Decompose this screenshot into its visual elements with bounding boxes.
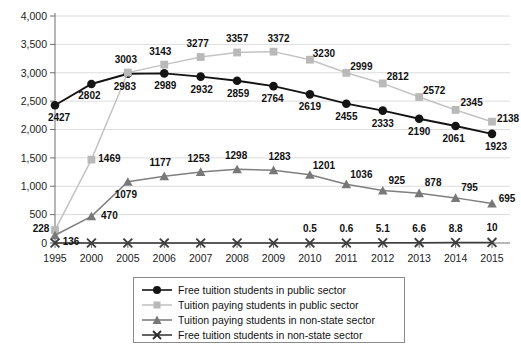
data-point-label: 2619: [299, 101, 322, 112]
data-point-label: 1201: [313, 160, 336, 171]
data-point-label: 2999: [350, 61, 373, 72]
data-point-label: 1036: [350, 169, 373, 180]
y-axis-tick-label: 1,000: [21, 180, 47, 192]
data-point-label: 2345: [460, 97, 483, 108]
data-point-label: 0.6: [339, 223, 353, 234]
x-axis-tick-label: 2010: [298, 252, 322, 264]
data-point-label: 1923: [485, 141, 508, 152]
legend-label: Free tuition students in non-state secto…: [178, 329, 362, 341]
data-point-label: 3230: [313, 48, 336, 59]
data-point-label: 1298: [225, 150, 248, 161]
legend-label: Tuition paying students in non-state sec…: [178, 314, 375, 326]
data-point-label: 3357: [226, 33, 249, 44]
y-axis-tick-label: 500: [29, 208, 47, 220]
legend-marker-triangle-icon: [140, 313, 174, 327]
x-axis-tick-label: 2011: [335, 252, 358, 264]
legend-label: Free tuition students in public sector: [178, 284, 346, 296]
legend-marker-square-icon: [140, 298, 174, 312]
data-point-label: 3277: [187, 38, 210, 49]
x-axis-tick-label: 2015: [480, 252, 504, 264]
data-point-label: 1177: [149, 157, 171, 168]
data-point-label: 8.8: [449, 223, 463, 234]
data-point-label: 3372: [267, 33, 290, 44]
data-point-label: 2427: [48, 112, 71, 123]
data-point-label: 2802: [78, 90, 101, 101]
y-axis-tick-label: 3,500: [21, 38, 47, 50]
data-point-label: 6.6: [412, 223, 426, 234]
y-axis-tick-label: 0: [41, 237, 47, 249]
x-axis-tick-label: 2006: [153, 252, 177, 264]
x-axis-tick-label: 2012: [371, 252, 395, 264]
y-axis-tick-label: 2,500: [21, 95, 47, 107]
data-point-label: 1079: [115, 189, 138, 200]
data-point-label: 0.5: [303, 223, 317, 234]
data-point-label: 2932: [191, 84, 214, 95]
data-point-label: 136: [63, 236, 80, 247]
data-point-label: 2455: [335, 111, 358, 122]
x-axis-tick-label: 2009: [262, 252, 286, 264]
data-point-label: 878: [425, 177, 442, 188]
data-point-label: 2190: [408, 126, 431, 137]
legend-item-paying-nonstate[interactable]: Tuition paying students in non-state sec…: [140, 312, 398, 327]
data-point-label: 10: [486, 222, 498, 233]
data-point-label: 2764: [261, 93, 284, 104]
data-point-label: 470: [101, 210, 118, 221]
series-line-1: [55, 52, 492, 230]
data-point-label: 795: [461, 182, 478, 193]
data-point-label: 2061: [442, 133, 465, 144]
data-point-label: 3143: [149, 46, 172, 57]
x-axis-tick-label: 2000: [80, 252, 104, 264]
line-chart: 05001,0001,5002,0002,5003,0003,5004,0001…: [0, 0, 521, 357]
data-point-label: 1253: [188, 153, 211, 164]
legend-item-free-nonstate[interactable]: Free tuition students in non-state secto…: [140, 327, 398, 342]
data-point-label: 2572: [423, 85, 446, 96]
data-point-label: 1469: [98, 153, 121, 164]
legend-marker-circle-icon: [140, 283, 174, 297]
data-point-label: 2989: [154, 80, 177, 91]
legend-marker-x-icon: [140, 328, 174, 342]
y-axis-tick-label: 2,000: [21, 123, 47, 135]
legend-label: Tuition paying students in public sector: [178, 299, 359, 311]
x-axis-tick-label: 2005: [116, 252, 140, 264]
data-point-label: 2333: [372, 118, 395, 129]
data-point-label: 695: [499, 193, 516, 204]
x-axis-tick-label: 2014: [444, 252, 468, 264]
data-point-label: 925: [388, 175, 405, 186]
x-axis-tick-label: 2007: [189, 252, 213, 264]
data-point-label: 2859: [227, 88, 250, 99]
chart-legend: Free tuition students in public sector T…: [133, 277, 405, 343]
data-point-label: 5.1: [376, 223, 390, 234]
x-axis-tick-label: 2013: [407, 252, 431, 264]
x-axis-tick-label: 2008: [225, 252, 249, 264]
data-point-label: 2812: [387, 71, 410, 82]
y-axis-tick-label: 1,500: [21, 152, 47, 164]
data-point-label: 2983: [114, 81, 137, 92]
y-axis-tick-label: 4,000: [21, 10, 47, 22]
x-axis-tick-label: 1995: [43, 252, 67, 264]
data-point-label: 228: [33, 223, 50, 234]
legend-item-free-public[interactable]: Free tuition students in public sector: [140, 282, 398, 297]
y-axis-tick-label: 3,000: [21, 67, 47, 79]
legend-item-paying-public[interactable]: Tuition paying students in public sector: [140, 297, 398, 312]
data-point-label: 1283: [268, 151, 291, 162]
data-point-label: 2138: [497, 113, 520, 124]
data-point-label: 3003: [115, 54, 138, 65]
